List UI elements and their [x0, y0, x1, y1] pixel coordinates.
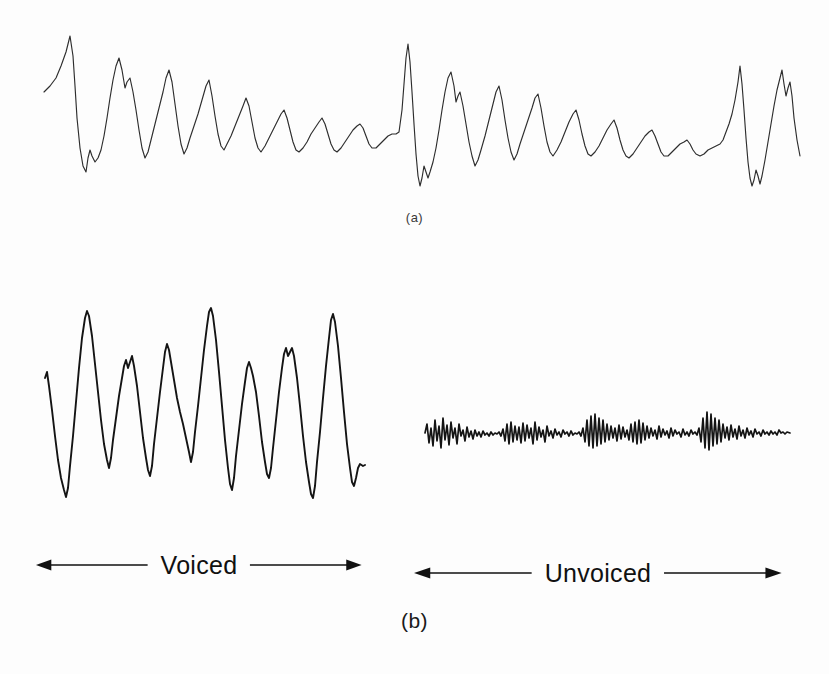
waveform-voiced-trace — [45, 308, 365, 498]
waveform-a-trace — [44, 36, 800, 186]
unvoiced-annotation: Unvoiced — [412, 556, 784, 590]
arrow-left-icon — [34, 558, 150, 572]
panel-a-caption: (a) — [0, 210, 829, 225]
speech-waveform-figure: (a) Voiced Unvoiced (b) — [0, 0, 829, 674]
arrow-right-icon — [248, 558, 364, 572]
voiced-annotation: Voiced — [34, 548, 364, 582]
panel-b-caption: (b) — [0, 609, 829, 633]
arrow-left-icon — [412, 566, 534, 580]
waveform-unvoiced-trace — [425, 412, 790, 450]
voiced-label: Voiced — [150, 553, 249, 578]
unvoiced-label: Unvoiced — [534, 561, 663, 586]
arrow-right-icon — [662, 566, 784, 580]
